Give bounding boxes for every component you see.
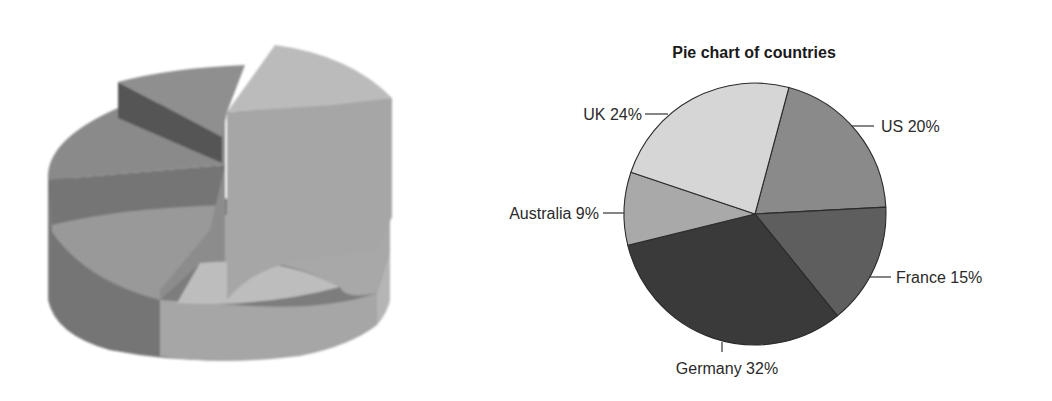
label-us: US 20% [881, 118, 940, 135]
3d-pie-chart [48, 45, 392, 361]
chart-title: Pie chart of countries [672, 44, 836, 61]
pie-chart-countries: Pie chart of countries UK 24% US 20% Fra… [509, 44, 982, 377]
figure-canvas: Pie chart of countries UK 24% US 20% Fra… [0, 0, 1052, 401]
label-france: France 15% [896, 269, 982, 286]
label-uk: UK 24% [583, 106, 642, 123]
label-australia: Australia 9% [509, 205, 599, 222]
label-germany: Germany 32% [676, 360, 778, 377]
